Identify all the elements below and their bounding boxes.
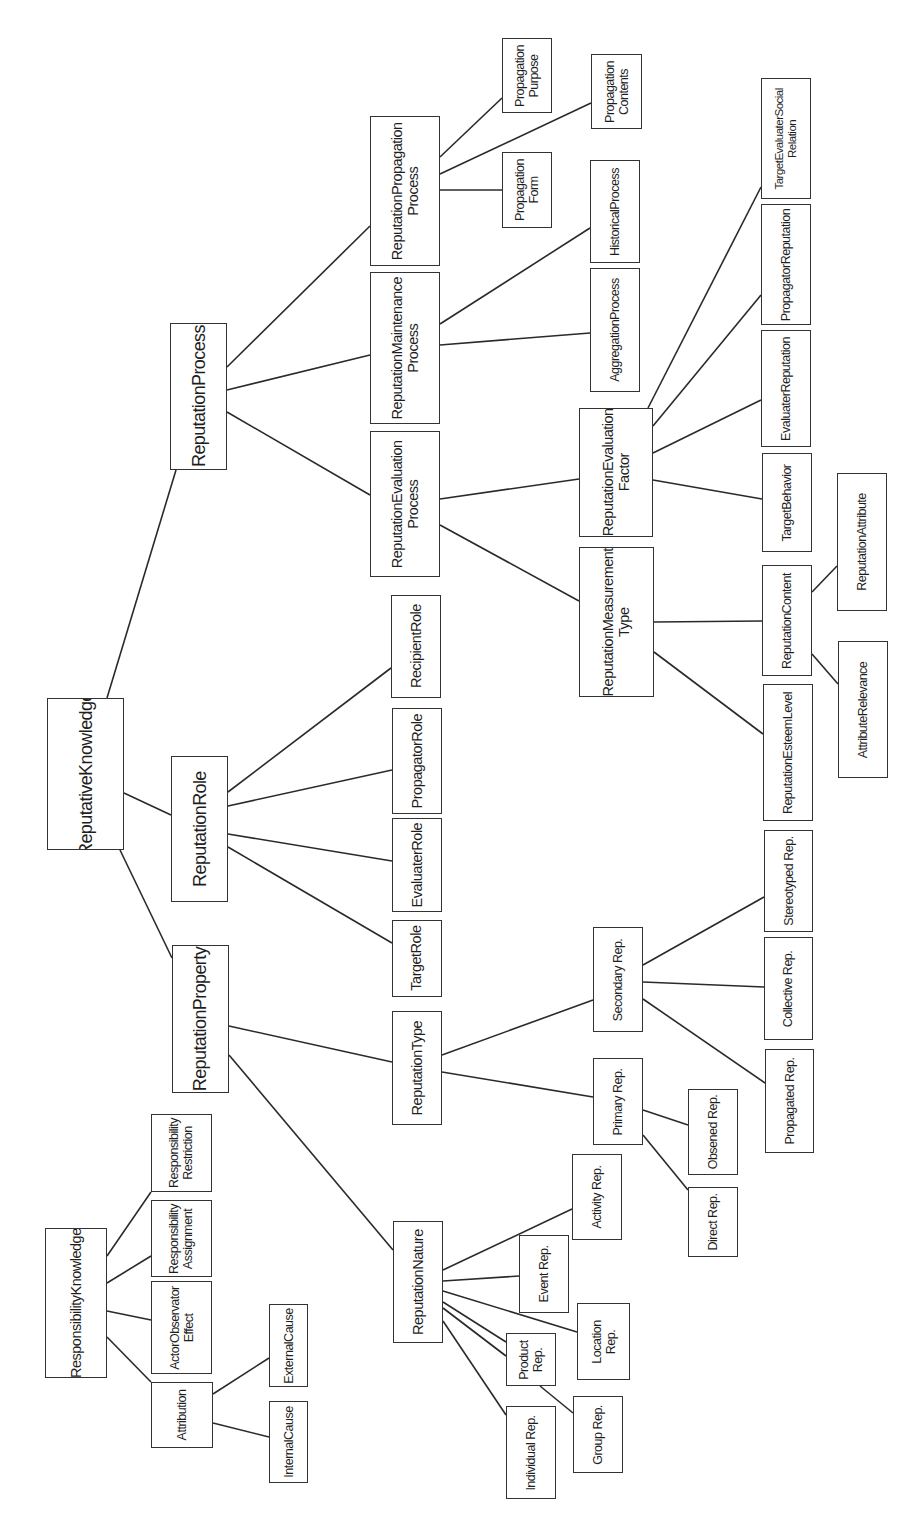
node-label: Stereotyped Rep. (782, 836, 796, 925)
edge-reputation_property-to-reputation_type (229, 1026, 392, 1062)
edge-attribution-to-internal_cause (213, 1423, 269, 1437)
node-event-rep: Event Rep. (519, 1235, 569, 1313)
node-attribute-relevance: AttributeRelevance (838, 641, 888, 778)
node-label: Direct Rep. (706, 1193, 720, 1250)
node-label: Individual Rep. (524, 1415, 538, 1490)
node-propagation-contents: Propagation Contents (591, 54, 642, 129)
node-label: Product Rep. (517, 1340, 545, 1380)
node-label: Event Rep. (537, 1246, 551, 1303)
node-label: PropagatorReputation (779, 208, 793, 320)
edge-responsibility_knowledge-to-responsibility_assignment (107, 1256, 151, 1283)
node-target-evaluater-social-relation: TargetEvaluaterSocial Relation (761, 78, 811, 199)
node-stereotyped-rep: Stereotyped Rep. (764, 830, 813, 932)
node-obsened-rep: Obsened Rep. (688, 1089, 738, 1175)
node-external-cause: ExternalCause (269, 1304, 308, 1387)
node-label: PropagatorRole (409, 714, 425, 809)
edge-secondary_rep-to-stereotyped_rep (643, 897, 764, 965)
node-reputation-attribute: ReputationAttribute (837, 473, 887, 611)
node-label: ReputationMaintenance Process (389, 277, 421, 420)
node-label: Secondary Rep. (611, 938, 625, 1021)
edge-measurement_type-to-reputation_esteem_level (654, 652, 763, 734)
edge-reputation_nature-to-event_rep (443, 1276, 519, 1281)
node-reputation-content: ReputationContent (762, 565, 812, 676)
node-label: Primary Rep. (611, 1068, 625, 1135)
edge-evaluation_process-to-evaluation_factor (440, 479, 579, 499)
node-label: AttributeRelevance (856, 661, 870, 758)
node-label: ReputationEvaluation Process (389, 440, 421, 568)
node-evaluation-factor: ReputationEvaluation Factor (579, 408, 653, 537)
edge-reputation_property-to-reputation_nature (229, 1055, 393, 1250)
node-maintenance-process: ReputationMaintenance Process (370, 272, 440, 424)
node-aggregation-process: AggregationProcess (590, 268, 640, 392)
node-label: TargetBehavior (780, 464, 794, 541)
node-label: ExternalCause (282, 1308, 296, 1384)
edge-secondary_rep-to-propagated_rep (643, 999, 765, 1083)
edge-reputation_role-to-recipient_role (228, 668, 391, 792)
edge-maintenance_process-to-historical_process (440, 228, 590, 324)
node-label: ReputationNature (410, 1229, 426, 1335)
node-reputation-esteem-level: ReputationEsteemLevel (763, 684, 813, 821)
node-label: Group Rep. (591, 1405, 605, 1465)
node-propagation-process: ReputationPropagation Process (370, 116, 440, 266)
node-label: Responsibility Restriction (168, 1118, 196, 1188)
node-label: ReputationEsteemLevel (781, 691, 795, 813)
node-propagator-reputation: PropagatorReputation (761, 204, 811, 325)
node-label: InternalCause (282, 1406, 296, 1477)
node-label: ReputationType (409, 1021, 425, 1116)
node-individual-rep: Individual Rep. (506, 1406, 556, 1499)
edge-maintenance_process-to-aggregation_process (440, 333, 590, 345)
edge-reputation_process-to-propagation_process (227, 226, 370, 367)
node-label: RecipientRole (408, 605, 424, 689)
node-product-rep: Product Rep. (506, 1333, 556, 1386)
node-label: Collective Rep. (782, 950, 796, 1027)
node-label: ReputationContent (780, 573, 794, 669)
edge-evaluation_factor-to-target_behavior (653, 480, 762, 499)
node-primary-rep: Primary Rep. (593, 1058, 643, 1145)
node-label: TargetEvaluaterSocial Relation (773, 88, 799, 189)
node-label: AggregationProcess (608, 278, 622, 382)
node-evaluation-process: ReputationEvaluation Process (370, 431, 440, 577)
node-group-rep: Group Rep. (573, 1396, 623, 1473)
edge-evaluation_process-to-measurement_type (440, 525, 579, 601)
node-label: Propagation Form (513, 159, 541, 221)
edge-responsibility_knowledge-to-actor_observer_effect (107, 1311, 151, 1320)
node-label: Location Rep. (589, 1320, 617, 1363)
edge-reputation_nature-to-product_rep_b (443, 1308, 506, 1356)
edge-reputation_type-to-primary_rep (442, 1072, 593, 1097)
node-label: ActorObservator Effect (168, 1286, 196, 1370)
node-label: Propagation Purpose (513, 45, 541, 107)
edge-reputation_content-to-attribute_relevance (812, 654, 838, 684)
node-actor-observer-effect: ActorObservator Effect (151, 1281, 212, 1374)
node-location-rep: Location Rep. (577, 1303, 630, 1380)
node-responsibility-assignment: Responsibility Assignment (151, 1200, 212, 1277)
node-label: ReputationPropagation Process (389, 122, 421, 260)
edge-attribution-to-external_cause (213, 1358, 269, 1394)
edge-reputative_knowledge-to-reputation_process (107, 470, 176, 698)
node-secondary-rep: Secondary Rep. (593, 927, 643, 1032)
edge-reputation_content-to-reputation_attribute (812, 566, 837, 592)
node-reputation-property: ReputationProperty (172, 945, 229, 1093)
node-measurement-type: ReputationMeasurement Type (579, 547, 654, 697)
node-internal-cause: InternalCause (269, 1401, 308, 1483)
edge-primary_rep-to-obsened_rep (643, 1110, 688, 1125)
edge-reputative_knowledge-to-reputation_role (124, 793, 171, 815)
node-label: ReputationEvaluation Factor (600, 409, 632, 537)
node-activity-rep: Activity Rep. (572, 1154, 622, 1240)
node-propagation-form: Propagation Form (502, 152, 552, 228)
node-evaluater-role: EvaluaterRole (392, 818, 442, 912)
node-label: ReputationAttribute (855, 493, 869, 591)
node-reputation-process: ReputationProcess (170, 323, 227, 470)
node-responsibility-restriction: Responsibility Restriction (151, 1114, 212, 1192)
edge-evaluation_factor-to-evaluater_reputation (653, 400, 761, 453)
node-label: TargetRole (409, 926, 425, 991)
node-label: ResponsibilityKnowledge (68, 1228, 84, 1378)
edge-responsibility_knowledge-to-attribution (107, 1337, 151, 1382)
edge-reputation_process-to-maintenance_process (227, 355, 370, 390)
node-reputation-role: ReputationRole (171, 756, 228, 902)
ontology-diagram: ReputativeKnowledgeReputationProcessRepu… (0, 0, 916, 1526)
node-target-behavior: TargetBehavior (762, 453, 812, 552)
edge-reputation_nature-to-product_rep_a (443, 1302, 506, 1342)
node-label: EvaluaterReputation (779, 337, 793, 441)
node-label: ReputationProperty (190, 947, 210, 1091)
node-label: ReputationProcess (188, 326, 208, 468)
